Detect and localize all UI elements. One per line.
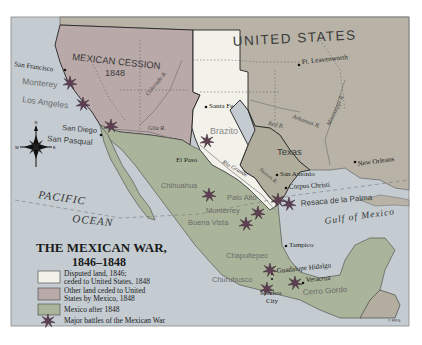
legend-swatch-disputed (38, 271, 60, 283)
city-dot (298, 64, 301, 67)
city-dot (285, 187, 288, 190)
city-dot (285, 245, 288, 248)
compass-e: E (53, 145, 56, 150)
city-tampico: Tampico (289, 241, 314, 249)
legend-item-4-line1: Major battles of the Mexican War (64, 316, 166, 325)
battle-churubusco: Churubusco (212, 275, 252, 284)
city-dot (271, 278, 273, 280)
label-texas: Texas (277, 146, 302, 157)
battle-palo-alto: Palo Alto (227, 193, 257, 202)
city-mexico-city-line2: City (266, 297, 279, 305)
city-dot (276, 174, 279, 177)
legend-swatch-ceded (38, 288, 60, 300)
city-santa-fe: Santa Fe (209, 102, 233, 110)
legend-swatch-mexico (38, 304, 60, 315)
city-dot (64, 69, 67, 72)
city-san-antonio: San Antonio (280, 170, 315, 178)
label-gila-river: Gila R. (148, 125, 165, 131)
city-dot (100, 134, 103, 137)
legend-title-line1: THE MEXICAN WAR, (36, 240, 167, 255)
city-el-paso: El Paso (176, 156, 198, 164)
battle-chihuahua: Chihuahua (161, 181, 198, 190)
legend-item-2-line2: States by Mexico, 1848 (64, 294, 135, 303)
legend-item-1-line2: ceded to United States, 1848 (64, 277, 150, 286)
battle-chapultepec: Chapultepec (226, 251, 268, 260)
label-mexican-cession-year: 1848 (105, 68, 125, 78)
mexican-war-map: UNITED STATES MEXICAN CESSION 1848 Texas… (0, 0, 422, 345)
compass-w: W (15, 145, 19, 150)
city-dot (354, 161, 357, 164)
legend-title-line2: 1846–1848 (72, 255, 126, 269)
battle-buena-vista: Buena Vista (188, 218, 229, 227)
city-dot (302, 282, 305, 285)
battle-monterrey: Monterrey (206, 206, 240, 215)
copyright-label: © FPG (388, 318, 400, 323)
compass-n: N (35, 120, 38, 125)
city-dot (205, 106, 208, 109)
label-brazito: Brazito (210, 126, 238, 136)
legend-item-3-line1: Mexico after 1848 (64, 305, 120, 314)
